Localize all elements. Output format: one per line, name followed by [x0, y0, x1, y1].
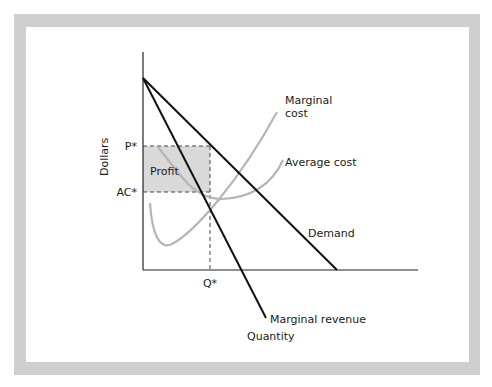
ac-star-label: AC*	[116, 186, 137, 199]
demand-label: Demand	[308, 227, 355, 240]
profit-label: Profit	[150, 165, 179, 178]
marginal-cost-label-2: cost	[285, 107, 309, 120]
marginal-revenue-label: Marginal revenue	[270, 313, 366, 326]
monopoly-profit-chart: Dollars P* AC* Q* Profit Marginal cost A…	[0, 0, 492, 387]
y-axis-label: Dollars	[98, 137, 111, 176]
x-axis-label: Quantity	[247, 330, 295, 343]
q-star-label: Q*	[203, 277, 218, 290]
p-star-label: P*	[125, 140, 138, 153]
marginal-cost-label-1: Marginal	[285, 94, 332, 107]
average-cost-label: Average cost	[285, 156, 357, 169]
